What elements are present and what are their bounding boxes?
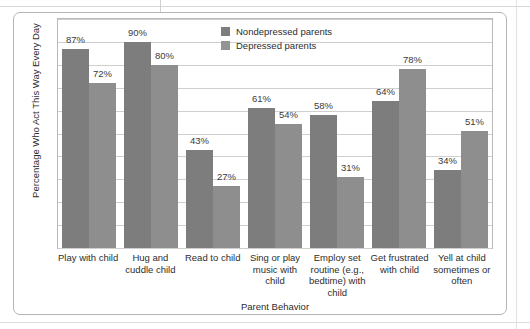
bar-group: 61%54% xyxy=(244,19,306,248)
bar-group: 43%27% xyxy=(182,19,244,248)
x-tick-label: Hug and cuddle child xyxy=(119,252,181,298)
bar[interactable]: 31% xyxy=(337,177,364,248)
x-tick-labels: Play with childHug and cuddle childRead … xyxy=(57,252,493,298)
bar-value-label: 72% xyxy=(93,68,112,79)
bar-group: 90%80% xyxy=(120,19,182,248)
page-rule-top xyxy=(0,6,530,7)
bar-group: 34%51% xyxy=(430,19,492,248)
legend-label: Nondepressed parents xyxy=(236,26,332,37)
bar-value-label: 87% xyxy=(66,34,85,45)
figure-frame: Percentage Who Act This Way Every Day 87… xyxy=(13,12,507,315)
legend-label: Depressed parents xyxy=(236,40,316,51)
bar-value-label: 64% xyxy=(376,86,395,97)
bar[interactable]: 51% xyxy=(461,131,488,248)
bar-value-label: 58% xyxy=(314,100,333,111)
bar[interactable]: 58% xyxy=(310,115,337,248)
bar-group: 58%31% xyxy=(306,19,368,248)
page-rule-bottom xyxy=(0,322,530,323)
bar[interactable]: 43% xyxy=(186,150,213,248)
bar-value-label: 54% xyxy=(279,109,298,120)
bar-value-label: 51% xyxy=(465,116,484,127)
bar-value-label: 43% xyxy=(190,135,209,146)
bar[interactable]: 90% xyxy=(124,42,151,248)
bar[interactable]: 80% xyxy=(151,65,178,248)
bar-group: 87%72% xyxy=(58,19,120,248)
x-tick-label: Get frustrated with child xyxy=(368,252,430,298)
legend-entry[interactable]: Depressed parents xyxy=(221,40,332,51)
y-axis-title: Percentage Who Act This Way Every Day xyxy=(30,6,41,216)
bar[interactable]: 34% xyxy=(434,170,461,248)
bar[interactable]: 87% xyxy=(62,49,89,248)
x-tick-label: Yell at child sometimes or often xyxy=(431,252,493,298)
bar[interactable]: 64% xyxy=(372,101,399,248)
bar[interactable]: 27% xyxy=(213,186,240,248)
bar[interactable]: 72% xyxy=(89,83,116,248)
bar-value-label: 78% xyxy=(403,54,422,65)
bar-chart: Percentage Who Act This Way Every Day 87… xyxy=(14,13,508,316)
gridline xyxy=(58,248,492,249)
x-tick-label: Play with child xyxy=(57,252,119,298)
bar-value-label: 80% xyxy=(155,50,174,61)
bar[interactable]: 78% xyxy=(399,69,426,248)
bars-layer: 87%72%90%80%43%27%61%54%58%31%64%78%34%5… xyxy=(58,19,492,248)
plot-area: 87%72%90%80%43%27%61%54%58%31%64%78%34%5… xyxy=(57,18,493,249)
legend-entry[interactable]: Nondepressed parents xyxy=(221,26,332,37)
bar-value-label: 34% xyxy=(438,155,457,166)
bar[interactable]: 54% xyxy=(275,124,302,248)
page-rule-right xyxy=(516,0,517,329)
bar-group: 64%78% xyxy=(368,19,430,248)
legend-swatch-nondepressed xyxy=(221,27,230,36)
bar-value-label: 31% xyxy=(341,162,360,173)
x-tick-label: Read to child xyxy=(182,252,244,298)
chart-legend: Nondepressed parentsDepressed parents xyxy=(221,26,332,51)
bar-value-label: 90% xyxy=(128,27,147,38)
legend-swatch-depressed xyxy=(221,41,230,50)
bar[interactable]: 61% xyxy=(248,108,275,248)
bar-value-label: 61% xyxy=(252,93,271,104)
x-axis-title: Parent Behavior xyxy=(57,301,493,312)
x-tick-label: Sing or play music with child xyxy=(244,252,306,298)
x-tick-label: Employ set routine (e.g., bedtime) with … xyxy=(306,252,368,298)
bar-value-label: 27% xyxy=(217,171,236,182)
